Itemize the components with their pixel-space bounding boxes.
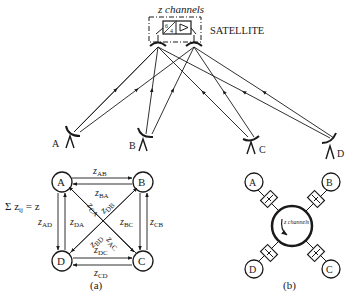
amplifier-icon (180, 24, 188, 31)
svg-text:C: C (259, 144, 266, 155)
svg-text:A: A (57, 176, 65, 188)
svg-text:A: A (249, 177, 257, 188)
svg-text:zAB: zAB (92, 165, 107, 178)
caption-a: (a) (90, 279, 103, 292)
channels-label: z channels (157, 3, 204, 15)
panel-a-mesh: Σ zij = z A B C D zAB (5, 165, 164, 292)
sum-equation: Σ zij = z (5, 200, 40, 214)
earth-station-c: C (243, 136, 266, 155)
svg-text:4: 4 (170, 28, 173, 34)
figure: z channels 6 4 SATELLITE A (0, 0, 349, 292)
svg-text:zBC: zBC (119, 216, 134, 229)
svg-text:D: D (57, 255, 65, 267)
svg-text:D: D (249, 264, 256, 275)
satellite-receive-antenna-icon (150, 43, 166, 47)
svg-text:zDA: zDA (69, 216, 84, 229)
panel-b-pool: z channels A B C D (b) (245, 173, 340, 292)
earth-station-a: A (52, 126, 80, 149)
svg-text:C: C (138, 255, 145, 267)
channel-pool (272, 206, 312, 246)
caption-b: (b) (283, 279, 296, 292)
svg-text:zBA: zBA (94, 187, 109, 200)
satellite: z channels 6 4 SATELLITE (149, 3, 264, 46)
svg-text:zCB: zCB (149, 216, 164, 229)
svg-text:zDB: zDB (97, 198, 117, 218)
svg-text:B: B (129, 140, 136, 151)
earth-station-d: D (322, 133, 344, 159)
svg-text:C: C (326, 264, 333, 275)
dish-antenna-icon (138, 128, 153, 137)
earth-station-b: B (129, 128, 153, 151)
svg-text:6: 6 (165, 23, 168, 29)
svg-text:A: A (52, 138, 60, 149)
beams (74, 47, 334, 138)
svg-text:zAD: zAD (37, 216, 52, 229)
svg-text:B: B (326, 177, 333, 188)
svg-text:B: B (138, 176, 145, 188)
satellite-label: SATELLITE (210, 25, 264, 36)
satellite-transmit-antenna-icon (186, 43, 202, 47)
pool-label: z channels (283, 219, 310, 225)
svg-text:D: D (337, 148, 344, 159)
dish-antenna-icon (243, 136, 259, 140)
